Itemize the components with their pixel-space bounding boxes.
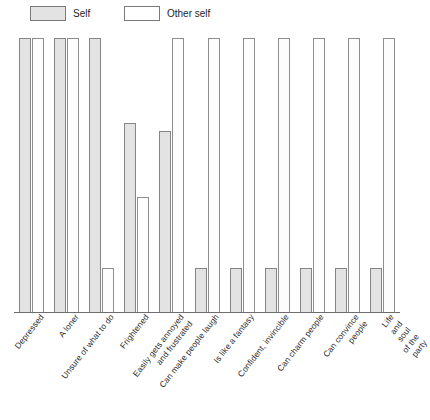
bar-other-self-4: [172, 38, 184, 312]
bar-other-self-3: [137, 197, 149, 312]
bar-self-9: [335, 268, 347, 312]
x-axis-tick-label: A loner: [56, 312, 81, 340]
chart-legend: Self Other self: [0, 6, 412, 28]
legend-label-self: Self: [73, 9, 90, 19]
x-axis-tick-label: Frightened: [118, 312, 152, 351]
bar-other-self-7: [278, 38, 290, 312]
bar-self-0: [19, 38, 31, 312]
bar-other-self-1: [67, 38, 79, 312]
plot-area: [14, 38, 400, 312]
bar-self-4: [159, 131, 171, 312]
bar-self-2: [89, 38, 101, 312]
bar-self-7: [265, 268, 277, 312]
legend-item-other-self: Other self: [124, 6, 210, 21]
bar-self-3: [124, 123, 136, 312]
x-axis-labels: DepressedA lonerUnsure of what to doFrig…: [0, 312, 412, 420]
legend-swatch-self-icon: [30, 6, 66, 21]
bar-self-5: [195, 268, 207, 312]
bar-other-self-9: [348, 38, 360, 312]
bar-other-self-2: [102, 268, 114, 312]
bar-self-1: [54, 38, 66, 312]
x-axis-tick-label: Life and soul of the party: [374, 312, 430, 363]
legend-swatch-other-self-icon: [124, 6, 160, 21]
bar-self-8: [300, 268, 312, 312]
bar-self-6: [230, 268, 242, 312]
bar-other-self-8: [313, 38, 325, 312]
bar-other-self-6: [243, 38, 255, 312]
bar-other-self-10: [383, 38, 395, 312]
x-axis-tick-label: Depressed: [12, 312, 46, 351]
bar-other-self-5: [208, 38, 220, 312]
legend-item-self: Self: [30, 6, 90, 21]
x-axis-tick-label: Can convince people: [317, 312, 370, 371]
bar-self-10: [370, 268, 382, 312]
legend-label-other-self: Other self: [167, 9, 210, 19]
bar-other-self-0: [32, 38, 44, 312]
